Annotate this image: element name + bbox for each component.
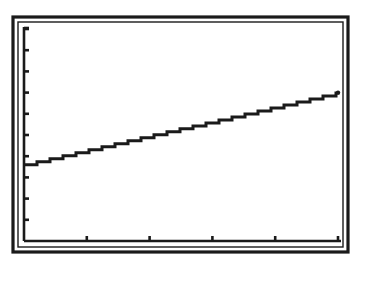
outer-frame	[13, 17, 348, 252]
inner-frame	[18, 22, 343, 247]
calculator-graph-screen	[0, 0, 368, 284]
data-series	[24, 90, 340, 164]
chart-axes	[24, 27, 341, 241]
axis-ticks	[24, 28, 338, 241]
line-chart	[0, 0, 368, 284]
screen-border	[13, 17, 348, 252]
line-endpoint	[336, 90, 340, 94]
data-line	[24, 93, 338, 165]
